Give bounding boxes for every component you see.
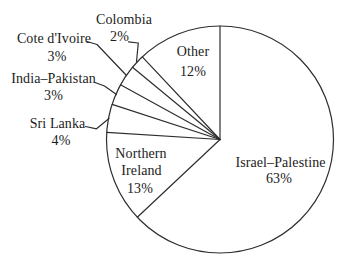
label-other-pct: 12% xyxy=(180,65,206,79)
label-sri-lanka: Sri Lanka xyxy=(30,117,86,131)
leader-line-colombia xyxy=(129,42,139,62)
label-sri-lanka-pct: 4% xyxy=(52,134,71,148)
label-india-pakistan-pct: 3% xyxy=(44,89,63,103)
label-israel-palestine-pct: 63% xyxy=(266,172,292,186)
label-colombia-pct: 2% xyxy=(110,30,129,44)
pie-chart-figure: Colombia 2% Cote d'Ivoire 3% India–Pakis… xyxy=(0,0,346,269)
label-colombia: Colombia xyxy=(96,13,152,27)
label-cote-divoire: Cote d'Ivoire xyxy=(17,32,91,46)
label-cote-divoire-pct: 3% xyxy=(48,50,67,64)
label-india-pakistan: India–Pakistan xyxy=(11,72,96,86)
label-northern-ireland-pct: 13% xyxy=(127,182,153,196)
label-northern-ireland-line2: Ireland xyxy=(121,164,161,178)
label-northern-ireland-line1: Northern xyxy=(115,147,166,161)
label-israel-palestine: Israel–Palestine xyxy=(235,156,325,170)
label-other: Other xyxy=(177,45,209,59)
leader-line-india-pakistan xyxy=(95,83,117,95)
slice-boundary-line xyxy=(133,67,221,139)
leader-line-sri-lanka xyxy=(86,119,110,129)
